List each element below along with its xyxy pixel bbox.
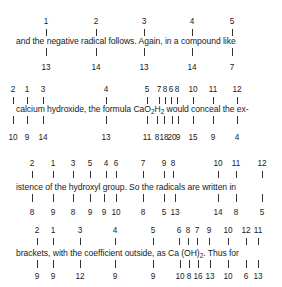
lower-tick-mark	[153, 260, 154, 268]
upper-tick-mark	[32, 171, 33, 178]
upper-tick-mark	[209, 238, 210, 245]
lower-number: 7	[230, 63, 235, 72]
upper-number: 1	[51, 226, 56, 235]
upper-number: 4	[113, 226, 118, 235]
upper-tick-mark	[116, 171, 117, 178]
lower-tick-mark	[116, 194, 117, 202]
upper-tick-mark	[164, 171, 165, 178]
upper-number: 2	[11, 85, 16, 94]
lower-tick-mark	[90, 194, 91, 202]
upper-tick-mark	[106, 171, 107, 178]
upper-tick-mark	[228, 238, 229, 245]
lower-number: 9	[211, 133, 216, 142]
lower-tick-mark	[175, 194, 176, 202]
lower-tick-mark	[213, 116, 214, 124]
lower-tick-mark	[147, 116, 148, 124]
upper-tick-mark	[13, 97, 14, 104]
upper-number: 2	[35, 226, 40, 235]
lower-tick-mark	[236, 194, 237, 202]
lower-tick-mark	[37, 260, 38, 268]
lower-number: 8	[187, 272, 192, 281]
lower-number: 8	[71, 208, 76, 217]
upper-number: 10	[188, 85, 197, 94]
lower-tick-mark	[178, 116, 179, 124]
upper-tick-mark	[159, 97, 160, 104]
lower-number: 15	[188, 133, 197, 142]
lower-tick-mark	[32, 194, 33, 202]
lower-tick-mark	[80, 260, 81, 268]
upper-tick-mark	[179, 238, 180, 245]
upper-number: 7	[141, 159, 146, 168]
lower-number: 10	[8, 133, 17, 142]
lower-tick-mark	[192, 48, 193, 56]
lower-tick-mark	[237, 116, 238, 124]
lower-number: 5	[162, 208, 167, 217]
lower-tick-mark	[246, 260, 247, 268]
lower-number: 13	[41, 63, 50, 72]
upper-number: 11	[232, 159, 241, 168]
lower-number: 9	[88, 208, 93, 217]
upper-number: 10	[223, 226, 232, 235]
lower-tick-mark	[262, 194, 263, 202]
upper-tick-mark	[237, 97, 238, 104]
upper-tick-mark	[246, 238, 247, 245]
upper-number: 7	[195, 226, 200, 235]
upper-tick-mark	[53, 171, 54, 178]
lower-tick-mark	[53, 260, 54, 268]
lower-tick-mark	[115, 260, 116, 268]
lower-number: 14	[38, 133, 47, 142]
upper-number: 4	[190, 17, 195, 26]
upper-number: 12	[257, 159, 266, 168]
upper-number: 8	[186, 226, 191, 235]
upper-number: 9	[207, 226, 212, 235]
upper-tick-mark	[197, 238, 198, 245]
lower-number: 14	[91, 63, 100, 72]
upper-number: 10	[213, 159, 222, 168]
upper-number: 6	[169, 85, 174, 94]
lower-tick-mark	[164, 116, 165, 124]
lower-tick-mark	[189, 260, 190, 268]
lower-number: 9	[51, 272, 56, 281]
upper-number: 8	[163, 85, 168, 94]
upper-number: 3	[142, 17, 147, 26]
lower-tick-mark	[180, 260, 181, 268]
upper-number: 12	[232, 85, 241, 94]
upper-tick-mark	[90, 171, 91, 178]
lower-tick-mark	[143, 194, 144, 202]
lower-tick-mark	[218, 194, 219, 202]
lower-number: 13	[253, 272, 262, 281]
upper-number: 5	[88, 159, 93, 168]
lower-tick-mark	[46, 48, 47, 56]
lower-tick-mark	[258, 260, 259, 268]
upper-number: 2	[30, 159, 35, 168]
upper-tick-mark	[43, 97, 44, 104]
lower-tick-mark	[144, 48, 145, 56]
lower-number: 14	[213, 208, 222, 217]
upper-tick-mark	[106, 97, 107, 104]
lower-tick-mark	[73, 194, 74, 202]
lower-tick-mark	[164, 194, 165, 202]
lower-number: 9	[25, 133, 30, 142]
lower-number: 9	[113, 272, 118, 281]
lower-number: 12	[75, 272, 84, 281]
upper-tick-mark	[192, 29, 193, 36]
lower-number: 9	[151, 272, 156, 281]
upper-tick-mark	[177, 97, 178, 104]
upper-number: 9	[162, 159, 167, 168]
lower-tick-mark	[27, 116, 28, 124]
upper-tick-mark	[171, 97, 172, 104]
lower-number: 9	[35, 272, 40, 281]
upper-number: 5	[145, 85, 150, 94]
lower-number: 10	[111, 208, 120, 217]
upper-number: 7	[157, 85, 162, 94]
lower-number: 8	[30, 208, 35, 217]
lower-tick-mark	[157, 116, 158, 124]
lower-tick-mark	[43, 116, 44, 124]
lower-tick-mark	[96, 48, 97, 56]
lower-tick-mark	[232, 48, 233, 56]
lower-number: 10	[175, 272, 184, 281]
upper-number: 8	[171, 159, 176, 168]
upper-tick-mark	[236, 171, 237, 178]
text-line: and the negative radical follows. Again,…	[16, 36, 236, 46]
lower-number: 5	[260, 208, 265, 217]
